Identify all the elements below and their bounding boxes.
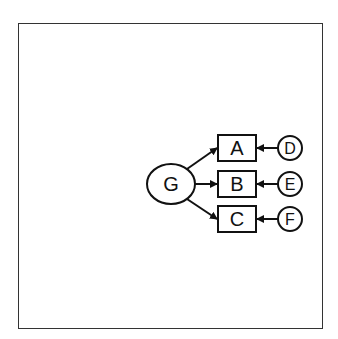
node-f: F xyxy=(278,207,302,231)
node-c: C xyxy=(218,206,256,232)
node-b: B xyxy=(218,171,256,197)
edge-g-a xyxy=(187,148,217,169)
node-g: G xyxy=(147,164,195,204)
node-g-label: G xyxy=(163,173,179,195)
node-e-label: E xyxy=(285,176,296,193)
node-b-label: B xyxy=(230,173,243,195)
node-d: D xyxy=(278,136,302,160)
node-d-label: D xyxy=(284,140,296,157)
edge-g-c xyxy=(187,199,217,219)
node-a: A xyxy=(218,135,256,161)
node-f-label: F xyxy=(285,211,295,228)
node-a-label: A xyxy=(230,137,244,159)
node-c-label: C xyxy=(230,208,244,230)
graph-diagram: G A B C D E F xyxy=(0,0,338,339)
node-e: E xyxy=(278,172,302,196)
